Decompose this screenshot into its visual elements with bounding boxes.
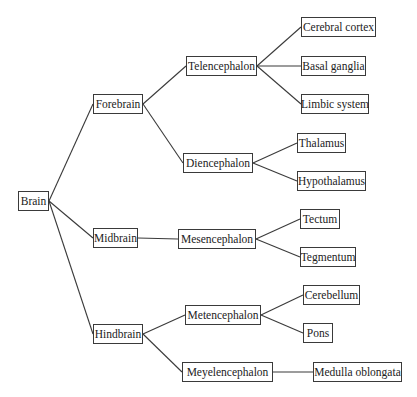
node-mesencephalon: Mesencephalon <box>178 229 256 249</box>
node-midbrain: Midbrain <box>93 228 138 248</box>
edge-diencephalon-hypothalamus <box>253 163 297 181</box>
edge-metencephalon-pons <box>261 315 303 333</box>
node-basal-ganglia: Basal ganglia <box>301 56 366 76</box>
edge-brain-hindbrain <box>49 201 93 334</box>
node-hindbrain: Hindbrain <box>93 324 143 344</box>
edge-brain-forebrain <box>49 104 93 201</box>
edge-midbrain-mesencephalon <box>138 238 178 239</box>
edge-forebrain-telencephalon <box>143 66 186 104</box>
node-telencephalon: Telencephalon <box>186 56 257 76</box>
edge-hindbrain-metencephalon <box>143 315 185 334</box>
node-meyelencephalon: Meyelencephalon <box>182 362 273 382</box>
node-hypothalamus: Hypothalamus <box>297 171 366 191</box>
node-thalamus: Thalamus <box>297 133 346 153</box>
node-pons: Pons <box>303 323 333 343</box>
node-brain: Brain <box>18 191 49 211</box>
node-forebrain: Forebrain <box>93 94 143 114</box>
node-cerebral-cortex: Cerebral cortex <box>301 17 376 37</box>
edge-telencephalon-cerebral_cortex <box>257 27 301 66</box>
edge-forebrain-diencephalon <box>143 104 183 163</box>
edge-telencephalon-limbic_system <box>257 66 301 104</box>
node-tegmentum: Tegmentum <box>300 247 356 267</box>
edge-hindbrain-meyelencephalon <box>143 334 182 372</box>
node-tectum: Tectum <box>300 209 340 229</box>
edge-diencephalon-thalamus <box>253 143 297 163</box>
node-diencephalon: Diencephalon <box>183 153 253 173</box>
node-medulla-oblongata: Medulla oblongata <box>313 362 402 382</box>
edge-mesencephalon-tegmentum <box>256 239 300 257</box>
node-limbic-system: Limbic system <box>301 94 369 114</box>
edge-mesencephalon-tectum <box>256 219 300 239</box>
node-cerebellum: Cerebellum <box>303 285 360 305</box>
edge-metencephalon-cerebellum <box>261 295 303 315</box>
node-metencephalon: Metencephalon <box>185 305 261 325</box>
